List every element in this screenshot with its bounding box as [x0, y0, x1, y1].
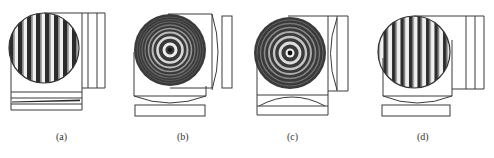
panel-label-d: (d): [417, 131, 429, 143]
panel-label-a: (a): [56, 131, 67, 143]
panel-d: (d): [376, 14, 484, 143]
panel-label-b: (b): [177, 131, 189, 143]
fringe-pattern-rings: [134, 14, 206, 86]
panel-b: (b): [134, 14, 232, 143]
panel-label-c: (c): [287, 131, 298, 143]
panel-a: (a): [8, 12, 105, 143]
fringe-pattern-rings: [254, 17, 326, 89]
panel-c: (c): [254, 16, 348, 143]
fringe-pattern-straight: [376, 14, 454, 92]
interferometer-figure: (a) (b): [0, 0, 494, 158]
wedge-plate: [12, 100, 80, 103]
